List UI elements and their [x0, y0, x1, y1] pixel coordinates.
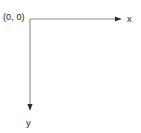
- y-axis-label: y: [26, 118, 31, 128]
- origin-label: (0, 0): [3, 13, 25, 22]
- x-axis-label: x: [127, 14, 132, 24]
- coordinate-axes-diagram: (0, 0) x y: [0, 0, 141, 133]
